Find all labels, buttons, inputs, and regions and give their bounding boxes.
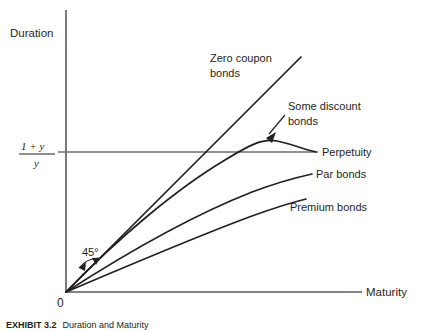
duration-maturity-chart: 45° 0 Duration Maturity 1 + y y Zero cou… bbox=[0, 0, 424, 330]
angle-label: 45° bbox=[82, 246, 99, 258]
figure-caption-text: Duration and Maturity bbox=[63, 320, 150, 330]
x-axis-label: Maturity bbox=[366, 286, 407, 298]
origin-label: 0 bbox=[57, 296, 64, 310]
curve-premium-bonds bbox=[66, 199, 306, 292]
y-tick-fraction-numerator: 1 + y bbox=[21, 140, 44, 152]
label-perpetuity: Perpetuity bbox=[322, 146, 372, 158]
label-par-bonds: Par bonds bbox=[316, 168, 367, 180]
label-some-discount-bonds-line2: bonds bbox=[288, 115, 318, 127]
figure-caption-number: EXHIBIT 3.2 bbox=[6, 320, 57, 330]
label-zero-coupon-bonds-line1: Zero coupon bbox=[210, 52, 272, 64]
label-some-discount-bonds-line1: Some discount bbox=[288, 100, 361, 112]
leader-some-discount-bonds bbox=[269, 115, 285, 134]
y-tick-fraction-denominator: y bbox=[33, 157, 39, 169]
y-axis-label: Duration bbox=[10, 27, 53, 39]
curve-par-bonds bbox=[66, 174, 312, 292]
chart-figure: 45° 0 Duration Maturity 1 + y y Zero cou… bbox=[0, 0, 424, 330]
figure-caption: EXHIBIT 3.2Duration and Maturity bbox=[6, 320, 149, 330]
label-zero-coupon-bonds-line2: bonds bbox=[210, 67, 240, 79]
label-premium-bonds: Premium bonds bbox=[290, 201, 368, 213]
